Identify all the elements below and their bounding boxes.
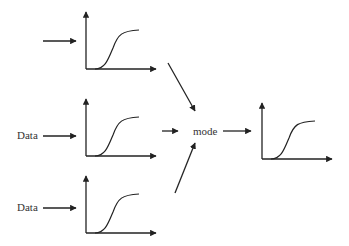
arrow-plot1-to-mode (168, 63, 195, 111)
sigmoid-plot-2 (86, 99, 156, 156)
input-label-3: Data (17, 201, 38, 213)
input-label-2: Data (17, 129, 38, 141)
ensemble-mode-diagram: Data Data mode (0, 0, 349, 246)
arrow-plot3-to-mode (175, 143, 195, 193)
output-sigmoid-plot (262, 103, 332, 159)
sigmoid-plot-3 (86, 176, 156, 233)
combiner-label: mode (193, 125, 218, 137)
sigmoid-plot-1 (86, 12, 156, 69)
